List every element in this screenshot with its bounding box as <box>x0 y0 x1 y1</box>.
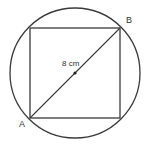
diagram: 8 cm B A <box>0 0 153 147</box>
center-point <box>73 71 76 74</box>
point-a-label: A <box>19 119 25 129</box>
point-b-label: B <box>126 15 132 25</box>
diameter-label: 8 cm <box>62 59 79 68</box>
